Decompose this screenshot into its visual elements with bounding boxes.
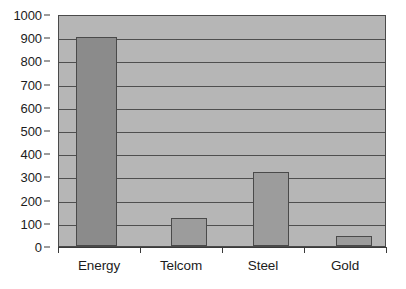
y-tick-label-700: 700 [21,77,42,92]
y-tick-mark-600 [44,107,50,108]
y-tick-mark-100 [44,223,50,224]
bar-telcom [171,218,207,246]
x-axis: Energy Telcom Steel Gold [58,258,386,282]
y-tick-mark-700 [44,84,50,85]
x-tick-mark-4 [386,247,387,253]
y-tick-label-0: 0 [35,240,42,255]
x-tick-label-energy: Energy [78,258,120,273]
y-tick-mark-500 [44,131,50,132]
x-tick-label-gold: Gold [331,258,359,273]
bar-steel [253,172,289,246]
y-tick-mark-900 [44,38,50,39]
y-tick-label-400: 400 [21,147,42,162]
y-tick-label-900: 900 [21,31,42,46]
y-tick-mark-800 [44,61,50,62]
y-tick-label-200: 200 [21,193,42,208]
y-tick-mark-200 [44,200,50,201]
x-tick-mark-3 [304,247,305,253]
bar-chart-figure: 1000 900 800 700 600 500 400 300 200 100… [0,0,406,289]
bar-gold [336,236,372,246]
bar-energy [76,37,117,246]
y-tick-mark-0 [44,247,50,248]
x-tick-mark-0 [58,247,59,253]
plot-area [58,15,386,247]
y-tick-label-500: 500 [21,124,42,139]
y-tick-label-800: 800 [21,54,42,69]
y-tick-label-100: 100 [21,216,42,231]
y-tick-label-1000: 1000 [13,8,42,23]
x-tick-label-steel: Steel [248,258,278,273]
y-tick-mark-1000 [44,15,50,16]
x-tick-label-telcom: Telcom [160,258,202,273]
y-axis: 1000 900 800 700 600 500 400 300 200 100… [0,15,50,247]
y-tick-label-300: 300 [21,170,42,185]
y-tick-mark-300 [44,177,50,178]
y-tick-mark-400 [44,154,50,155]
y-tick-label-600: 600 [21,100,42,115]
x-tick-mark-1 [140,247,141,253]
x-tick-mark-2 [222,247,223,253]
